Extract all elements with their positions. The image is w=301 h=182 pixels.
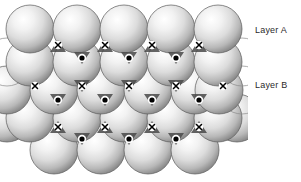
- dot-marker: [173, 55, 178, 60]
- sphere: [6, 5, 54, 53]
- diagram-canvas: Layer A Layer B: [0, 0, 301, 182]
- dot-marker: [149, 97, 154, 102]
- dot-marker: [102, 97, 107, 102]
- layer-a-label: Layer A: [255, 25, 287, 35]
- sphere-row-1: [6, 5, 242, 53]
- dot-marker: [196, 97, 201, 102]
- dot-marker: [79, 55, 84, 60]
- dot-marker: [55, 97, 60, 102]
- dot-marker: [173, 136, 178, 141]
- dot-marker: [126, 136, 131, 141]
- dot-marker: [126, 55, 131, 60]
- layer-b-label: Layer B: [255, 80, 287, 90]
- dot-marker: [79, 136, 84, 141]
